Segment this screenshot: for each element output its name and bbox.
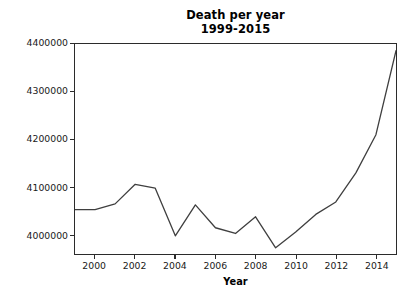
y-tick-label-wrap: 4100000 <box>0 183 68 193</box>
x-tick-label: 2012 <box>313 261 359 271</box>
x-axis-label: Year <box>74 276 397 287</box>
x-tick-label: 2014 <box>354 261 400 271</box>
death-per-year-line <box>75 51 396 248</box>
x-tick-mark <box>174 255 175 259</box>
x-tick-mark <box>296 255 297 259</box>
x-tick-mark <box>134 255 135 259</box>
data-line-series <box>75 44 396 254</box>
y-tick-label: 4400000 <box>6 38 68 48</box>
y-tick-label-wrap: 4000000 <box>0 231 68 241</box>
y-tick-label: 4200000 <box>6 134 68 144</box>
chart-title: Death per year 1999-2015 <box>74 8 397 36</box>
y-tick-label: 4300000 <box>6 86 68 96</box>
chart-figure: Death per year 1999-2015 400000041000004… <box>0 0 415 307</box>
x-tick-label: 2000 <box>71 261 117 271</box>
x-tick-mark <box>336 255 337 259</box>
x-tick-label: 2004 <box>152 261 198 271</box>
x-tick-label: 2010 <box>273 261 319 271</box>
x-tick-mark <box>255 255 256 259</box>
y-tick-label: 4000000 <box>6 231 68 241</box>
y-tick-label: 4100000 <box>6 183 68 193</box>
x-tick-mark <box>215 255 216 259</box>
plot-surface <box>75 44 396 254</box>
x-tick-mark <box>376 255 377 259</box>
x-tick-mark <box>94 255 95 259</box>
chart-title-line2: 1999-2015 <box>74 22 397 36</box>
x-tick-label: 2006 <box>192 261 238 271</box>
y-tick-label-wrap: 4400000 <box>0 38 68 48</box>
x-tick-label: 2002 <box>112 261 158 271</box>
y-tick-label-wrap: 4200000 <box>0 134 68 144</box>
chart-title-line1: Death per year <box>186 8 285 22</box>
y-tick-label-wrap: 4300000 <box>0 86 68 96</box>
x-tick-label: 2008 <box>233 261 279 271</box>
plot-area <box>74 43 397 255</box>
